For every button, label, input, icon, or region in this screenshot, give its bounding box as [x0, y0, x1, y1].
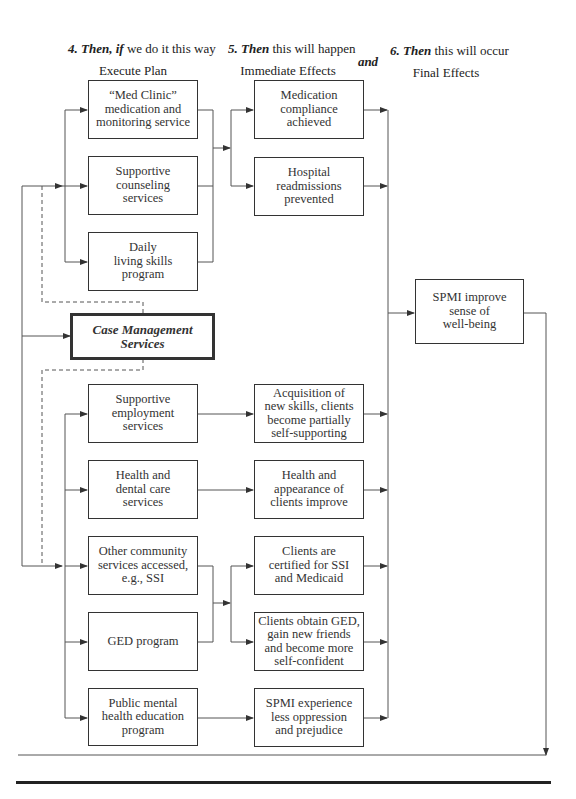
- col6-header-text: this will occur: [431, 43, 509, 58]
- plan-other-community: Other community services accessed, e.g.,…: [88, 536, 198, 595]
- box-label: “Med Clinic” medication and monitoring s…: [96, 89, 190, 130]
- col5-subheader: Immediate Effects: [228, 63, 348, 79]
- and-text: and: [358, 54, 378, 69]
- col4-emphasis: Then, if: [81, 41, 124, 56]
- box-label: Supportive counseling services: [116, 165, 171, 206]
- col4-header-text: we do it this way: [124, 41, 216, 56]
- box-label: Daily living skills program: [114, 241, 173, 282]
- box-label: Acquisition of new skills, clients becom…: [264, 387, 353, 441]
- box-label: Health and dental care services: [116, 469, 171, 510]
- col4-step-number: 4.: [68, 41, 78, 56]
- plan-supportive-employment: Supportive employment services: [88, 384, 198, 443]
- plan-supportive-counseling: Supportive counseling services: [88, 156, 198, 215]
- box-label: Public mental health education program: [102, 697, 184, 738]
- box-label: SPMI experience less oppression and prej…: [266, 697, 352, 738]
- plan-public-mental-health-education: Public mental health education program: [88, 688, 198, 746]
- col5-header: 5. Then this will happen: [228, 41, 348, 57]
- box-label: Hospital readmissions prevented: [276, 166, 341, 207]
- col5-step-number: 5.: [228, 41, 238, 56]
- col4-header: 4. Then, if we do it this way: [68, 41, 198, 57]
- col6-header: 6. Then this will occur: [390, 43, 502, 59]
- case-management-services: Case Management Services: [70, 313, 215, 360]
- col5-emphasis: Then: [241, 41, 269, 56]
- box-label: Medication compliance achieved: [280, 89, 338, 130]
- col6-step-number: 6.: [390, 43, 400, 58]
- final-effect-well-being: SPMI improve sense of well-being: [415, 279, 524, 344]
- effect-new-skills: Acquisition of new skills, clients becom…: [254, 384, 364, 443]
- footer-rule: [16, 781, 551, 784]
- box-label: GED program: [107, 635, 178, 649]
- effect-medication-compliance: Medication compliance achieved: [254, 80, 364, 139]
- effect-ged-friends: Clients obtain GED, gain new friends and…: [254, 612, 364, 671]
- box-label: Case Management Services: [92, 323, 192, 351]
- box-label: Clients are certified for SSI and Medica…: [269, 545, 350, 586]
- effect-readmissions-prevented: Hospital readmissions prevented: [254, 157, 364, 216]
- box-label: Other community services accessed, e.g.,…: [98, 545, 188, 586]
- effect-health-appearance: Health and appearance of clients improve: [254, 460, 364, 519]
- plan-med-clinic: “Med Clinic” medication and monitoring s…: [88, 80, 198, 139]
- box-label: Supportive employment services: [112, 393, 175, 434]
- effect-less-oppression: SPMI experience less oppression and prej…: [254, 688, 364, 747]
- box-label: Clients obtain GED, gain new friends and…: [258, 615, 360, 669]
- col4-subheader: Execute Plan: [68, 63, 198, 79]
- effect-ssi-medicaid: Clients are certified for SSI and Medica…: [254, 536, 364, 595]
- box-label: SPMI improve sense of well-being: [433, 291, 507, 332]
- and-connector: and: [355, 54, 381, 70]
- col6-subheader: Final Effects: [390, 65, 502, 81]
- plan-daily-living-skills: Daily living skills program: [88, 232, 198, 291]
- col6-emphasis: Then: [403, 43, 431, 58]
- plan-health-dental: Health and dental care services: [88, 460, 198, 519]
- col5-header-text: this will happen: [269, 41, 355, 56]
- plan-ged-program: GED program: [88, 612, 198, 671]
- box-label: Health and appearance of clients improve: [270, 469, 347, 510]
